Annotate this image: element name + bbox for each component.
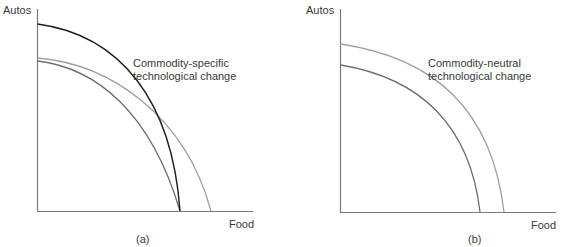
panel-b-y-axis-label: Autos <box>306 4 334 17</box>
figure-canvas <box>0 0 561 247</box>
panel-b-annotation: Commodity-neutral technological change <box>428 57 531 83</box>
panel-b-caption: (b) <box>468 233 481 246</box>
panel-a-annotation-line2: technological change <box>133 70 236 83</box>
panel-b-x-axis-label: Food <box>531 219 556 232</box>
panel-b-axes <box>340 9 556 213</box>
panel-a-x-axis-label: Food <box>229 218 254 231</box>
panel-a-autos-biased-ppf-curve <box>38 24 181 211</box>
panel-a-axes <box>37 9 253 212</box>
panel-a-y-axis-label: Autos <box>3 4 31 17</box>
panel-a-original-ppf-curve <box>38 61 181 211</box>
panel-b-annotation-line1: Commodity-neutral <box>428 57 531 70</box>
panel-a-annotation: Commodity-specific technological change <box>133 57 236 83</box>
panel-b-annotation-line2: technological change <box>428 70 531 83</box>
panel-a-caption: (a) <box>136 233 149 246</box>
panel-a-annotation-line1: Commodity-specific <box>133 57 236 70</box>
panel-b-original-ppf-curve <box>341 65 481 212</box>
